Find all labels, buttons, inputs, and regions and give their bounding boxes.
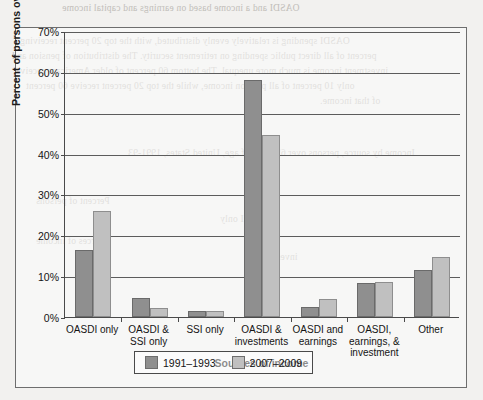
y-axis-tick-label: 60%	[38, 67, 59, 79]
bar-groups	[65, 31, 460, 317]
x-axis-tick-mark	[404, 317, 405, 322]
y-axis-tick-label: 40%	[38, 149, 59, 161]
legend-item: 1991–1993	[145, 356, 216, 369]
y-axis-tick-label: 20%	[38, 230, 59, 242]
plot-area: 0%10%20%30%40%50%60%70%	[64, 32, 459, 318]
bar[interactable]	[150, 308, 168, 317]
bar[interactable]	[188, 311, 206, 317]
chart-legend: 1991–1993 2007–2009	[134, 351, 313, 374]
bar[interactable]	[357, 283, 375, 317]
bar[interactable]	[432, 257, 450, 317]
bleed-line: OASDI and a income based on earnings and…	[62, 3, 300, 13]
legend-label: 2007–2009	[250, 357, 303, 369]
legend-swatch-icon	[232, 356, 245, 369]
x-axis-tick-mark	[121, 317, 122, 322]
bar[interactable]	[93, 211, 111, 317]
bar-group	[65, 31, 121, 317]
bar[interactable]	[244, 80, 262, 317]
bar[interactable]	[375, 282, 393, 317]
y-axis-title: Percent of persons over 65 years of age	[10, 0, 22, 106]
bar[interactable]	[414, 270, 432, 317]
bar[interactable]	[319, 299, 337, 317]
bar-group	[347, 31, 403, 317]
y-axis-tick-label: 50%	[38, 108, 59, 120]
plot-axes: 0%10%20%30%40%50%60%70%	[64, 32, 459, 318]
bar[interactable]	[75, 250, 93, 317]
x-axis-tick-mark	[178, 317, 179, 322]
bar[interactable]	[132, 298, 150, 317]
y-axis-tick-label: 30%	[38, 189, 59, 201]
y-axis-tick-label: 10%	[38, 271, 59, 283]
legend-item: 2007–2009	[232, 356, 303, 369]
x-axis-tick-label: Other	[403, 324, 459, 359]
y-axis-tick-label: 0%	[44, 312, 59, 324]
x-axis-tick-mark	[291, 317, 292, 322]
bar-group	[234, 31, 290, 317]
bar-group	[404, 31, 460, 317]
x-axis-tick-mark	[347, 317, 348, 322]
bar[interactable]	[301, 307, 319, 317]
bar[interactable]	[206, 311, 224, 317]
y-axis-tick-mark	[61, 318, 65, 319]
legend-label: 1991–1993	[163, 357, 216, 369]
legend-swatch-icon	[145, 356, 158, 369]
bar-group	[178, 31, 234, 317]
chart-container: Percent of persons over 65 years of age …	[15, 27, 467, 388]
bar-group	[121, 31, 177, 317]
y-axis-tick-label: 70%	[38, 26, 59, 38]
x-axis-tick-mark	[234, 317, 235, 322]
x-axis-tick-label: OASDI,earnings, &investment	[346, 324, 402, 359]
bar-group	[291, 31, 347, 317]
x-axis-tick-label: OASDI only	[64, 324, 120, 359]
bar[interactable]	[262, 135, 280, 317]
